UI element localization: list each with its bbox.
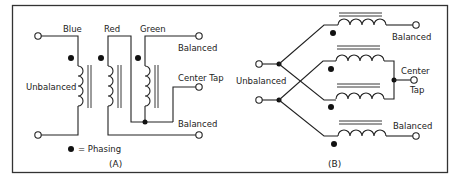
wire-to-coil-1 [279,25,338,64]
label-blue: Blue [63,24,82,34]
caption-b: (B) [328,159,341,169]
label-green: Green [140,24,166,34]
transformer-diagram: Blue Red Green Unbalanced Balanced Cente… [0,0,457,184]
legend-phasing-dot [68,146,74,152]
terminal-balanced-bottom [413,133,419,139]
phasing-dot [135,55,141,61]
terminal-unbalanced-top [35,33,41,39]
legend-phasing-text: = Phasing [78,144,121,154]
wire-to-coil-2 [279,61,336,100]
terminal-unbalanced-top [256,61,262,67]
wire-blue-top [41,36,78,66]
coil-blue [78,66,83,106]
coil-3 [328,84,384,110]
coil-2 [328,46,394,99]
terminal-balanced-top [413,22,419,28]
label-balanced-bottom: Balanced [393,121,432,131]
terminal-unbalanced-bottom [35,132,41,138]
coil-red [108,66,113,106]
label-tap: Tap [409,85,424,95]
terminal-unbalanced-bottom [256,97,262,103]
phasing-dot [68,55,74,61]
label-unbalanced: Unbalanced [236,76,286,86]
junction-dot [143,120,148,125]
label-balanced-bottom: Balanced [178,119,217,129]
wire-center-tap [173,87,196,122]
coil-green [145,66,150,106]
wire-blue-bottom [41,106,78,135]
panel-b: Unbalanced Balanced Center Tap Balanced … [236,13,432,169]
terminal-center-tap [411,77,417,83]
terminal-balanced-top [196,33,202,39]
phasing-dot [328,104,334,110]
terminal-balanced-bottom [196,132,202,138]
phasing-dot [331,141,337,147]
label-center-tap: Center Tap [178,73,224,83]
panel-a: Blue Red Green Unbalanced Balanced Cente… [26,24,224,169]
label-unbalanced: Unbalanced [26,82,76,92]
caption-a: (A) [109,159,122,169]
label-center: Center [401,66,430,76]
wire-to-coil-3 [279,64,336,100]
terminal-center-tap [196,84,202,90]
phasing-dot [330,30,336,36]
phasing-dot [328,66,334,72]
label-balanced-top: Balanced [178,43,217,53]
label-red: Red [104,24,120,34]
phasing-dot [98,55,104,61]
label-balanced-top: Balanced [392,32,431,42]
